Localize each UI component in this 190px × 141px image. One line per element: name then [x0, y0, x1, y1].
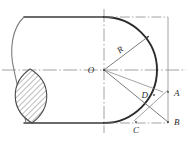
point-c-marker [135, 121, 137, 123]
point-o-marker [103, 69, 105, 71]
label-point-b: B [174, 117, 180, 127]
point-b-marker [167, 121, 169, 123]
label-point-d: D [141, 90, 149, 100]
technical-drawing-canvas: O R A B C D [0, 0, 190, 141]
radius-dimension-leader [104, 36, 149, 70]
point-a-marker [167, 91, 169, 93]
cylinder-radiused-end-figure: O R A B C D [0, 0, 190, 141]
label-point-c: C [133, 125, 140, 135]
hatched-section-lens [4, 62, 60, 130]
label-radius-r: R [114, 44, 126, 56]
label-point-a: A [173, 88, 180, 98]
construction-ray-ob [104, 70, 168, 122]
label-center-o: O [88, 65, 95, 75]
point-d-marker [153, 94, 155, 96]
construction-ray-oa [104, 70, 163, 92]
